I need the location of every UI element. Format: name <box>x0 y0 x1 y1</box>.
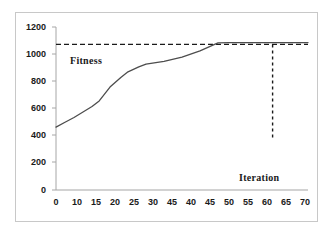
chart-svg <box>16 13 317 221</box>
y-tick-label-200: 200 <box>16 157 46 167</box>
x-tick-label-65: 65 <box>277 197 295 207</box>
x-tick-label-45: 45 <box>201 197 219 207</box>
y-tick-label-400: 400 <box>16 130 46 140</box>
x-tick-label-50: 50 <box>220 197 238 207</box>
x-tick-label-10: 10 <box>68 197 86 207</box>
fitness-axis-annotation: Fitness <box>70 55 102 66</box>
chart-plot-frame: 1200 1000 800 600 400 200 0 0 10 15 20 2… <box>15 12 318 222</box>
x-tick-label-70: 70 <box>296 197 314 207</box>
iteration-axis-annotation: Iteration <box>239 172 279 183</box>
x-tick-label-60: 60 <box>258 197 276 207</box>
figure-canvas: 1200 1000 800 600 400 200 0 0 10 15 20 2… <box>0 0 333 234</box>
x-tick-label-55: 55 <box>239 197 257 207</box>
y-tick-label-1000: 1000 <box>16 49 46 59</box>
y-tick-label-0: 0 <box>16 185 46 195</box>
x-tick-label-40: 40 <box>182 197 200 207</box>
x-tick-label-25: 25 <box>125 197 143 207</box>
y-axis-ticks <box>52 27 56 190</box>
y-tick-label-1200: 1200 <box>16 22 46 32</box>
y-tick-label-800: 800 <box>16 76 46 86</box>
x-tick-label-30: 30 <box>144 197 162 207</box>
x-tick-label-20: 20 <box>106 197 124 207</box>
x-tick-label-0: 0 <box>47 197 65 207</box>
x-tick-label-15: 15 <box>87 197 105 207</box>
x-tick-label-35: 45 <box>163 197 181 207</box>
y-tick-label-600: 600 <box>16 103 46 113</box>
